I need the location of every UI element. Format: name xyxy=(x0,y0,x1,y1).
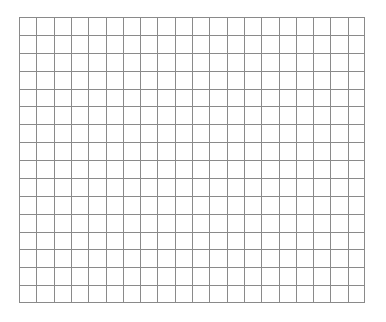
grid-paper xyxy=(19,17,365,303)
grid-lines xyxy=(19,17,365,303)
